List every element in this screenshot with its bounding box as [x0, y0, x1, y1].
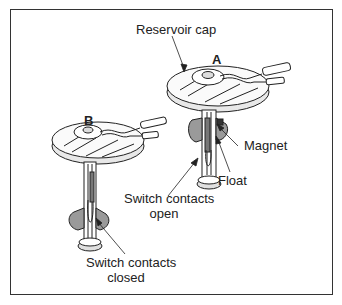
label-reservoir-cap: Reservoir cap [136, 22, 216, 37]
assembly-b [52, 117, 167, 251]
label-switch-open: Switch contacts open [124, 191, 204, 221]
label-switch-closed: Switch contacts closed [86, 255, 166, 285]
switch-closed-line2: closed [86, 270, 166, 285]
label-a: A [212, 52, 221, 67]
switch-open-line2: open [124, 206, 204, 221]
label-magnet: Magnet [244, 138, 287, 153]
label-float: Float [218, 173, 247, 188]
switch-open-line1: Switch contacts [124, 191, 204, 206]
label-b: B [84, 113, 93, 128]
switch-closed-line1: Switch contacts [86, 255, 166, 270]
